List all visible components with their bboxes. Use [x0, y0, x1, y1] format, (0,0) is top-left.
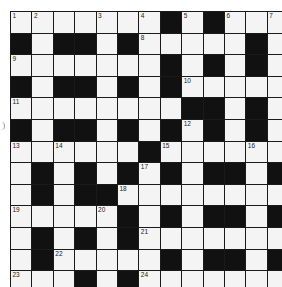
answer-cell[interactable]: 15: [161, 142, 181, 163]
answer-cell[interactable]: [32, 271, 52, 287]
answer-cell[interactable]: 7: [268, 12, 282, 33]
answer-cell[interactable]: [118, 98, 138, 119]
answer-cell[interactable]: 14: [54, 142, 74, 163]
answer-cell[interactable]: [118, 142, 138, 163]
answer-cell[interactable]: [32, 34, 52, 55]
answer-cell[interactable]: [32, 98, 52, 119]
answer-cell[interactable]: [54, 185, 74, 206]
answer-cell[interactable]: [268, 228, 282, 249]
answer-cell[interactable]: [75, 206, 95, 227]
answer-cell[interactable]: [246, 77, 266, 98]
answer-cell[interactable]: [225, 120, 245, 141]
answer-cell[interactable]: [139, 250, 159, 271]
answer-cell[interactable]: 17: [139, 163, 159, 184]
answer-cell[interactable]: [246, 12, 266, 33]
answer-cell[interactable]: [204, 185, 224, 206]
answer-cell[interactable]: [54, 98, 74, 119]
answer-cell[interactable]: [32, 142, 52, 163]
answer-cell[interactable]: [268, 34, 282, 55]
answer-cell[interactable]: [204, 34, 224, 55]
answer-cell[interactable]: [268, 271, 282, 287]
answer-cell[interactable]: 1: [11, 12, 31, 33]
answer-cell[interactable]: 19: [11, 206, 31, 227]
answer-cell[interactable]: [11, 228, 31, 249]
answer-cell[interactable]: 16: [246, 142, 266, 163]
answer-cell[interactable]: [204, 271, 224, 287]
answer-cell[interactable]: [204, 228, 224, 249]
answer-cell[interactable]: [246, 250, 266, 271]
answer-cell[interactable]: [118, 12, 138, 33]
answer-cell[interactable]: [246, 163, 266, 184]
answer-cell[interactable]: [139, 185, 159, 206]
answer-cell[interactable]: 8: [139, 34, 159, 55]
answer-cell[interactable]: [75, 142, 95, 163]
answer-cell[interactable]: [75, 250, 95, 271]
answer-cell[interactable]: [182, 142, 202, 163]
answer-cell[interactable]: [139, 55, 159, 76]
answer-cell[interactable]: [11, 163, 31, 184]
answer-cell[interactable]: 3: [97, 12, 117, 33]
answer-cell[interactable]: [225, 228, 245, 249]
answer-cell[interactable]: [182, 250, 202, 271]
answer-cell[interactable]: [75, 55, 95, 76]
answer-cell[interactable]: [161, 271, 181, 287]
answer-cell[interactable]: [182, 163, 202, 184]
answer-cell[interactable]: [268, 77, 282, 98]
answer-cell[interactable]: 20: [97, 206, 117, 227]
answer-cell[interactable]: [268, 185, 282, 206]
answer-cell[interactable]: [268, 142, 282, 163]
answer-cell[interactable]: [161, 34, 181, 55]
answer-cell[interactable]: [246, 185, 266, 206]
answer-cell[interactable]: [97, 77, 117, 98]
answer-cell[interactable]: [97, 120, 117, 141]
answer-cell[interactable]: [268, 55, 282, 76]
answer-cell[interactable]: [97, 228, 117, 249]
answer-cell[interactable]: [118, 250, 138, 271]
answer-cell[interactable]: 6: [225, 12, 245, 33]
answer-cell[interactable]: [182, 228, 202, 249]
answer-cell[interactable]: [139, 98, 159, 119]
answer-cell[interactable]: [54, 206, 74, 227]
answer-cell[interactable]: [246, 206, 266, 227]
answer-cell[interactable]: 10: [182, 77, 202, 98]
answer-cell[interactable]: [139, 206, 159, 227]
answer-cell[interactable]: [75, 12, 95, 33]
answer-cell[interactable]: 18: [118, 185, 138, 206]
answer-cell[interactable]: [97, 163, 117, 184]
answer-cell[interactable]: [225, 55, 245, 76]
answer-cell[interactable]: [139, 77, 159, 98]
answer-cell[interactable]: [97, 34, 117, 55]
answer-cell[interactable]: [268, 120, 282, 141]
answer-cell[interactable]: [139, 120, 159, 141]
answer-cell[interactable]: 22: [54, 250, 74, 271]
answer-cell[interactable]: [32, 206, 52, 227]
answer-cell[interactable]: 11: [11, 98, 31, 119]
answer-cell[interactable]: 9: [11, 55, 31, 76]
answer-cell[interactable]: [246, 271, 266, 287]
answer-cell[interactable]: 4: [139, 12, 159, 33]
answer-cell[interactable]: [225, 77, 245, 98]
answer-cell[interactable]: [11, 250, 31, 271]
answer-cell[interactable]: [161, 98, 181, 119]
answer-cell[interactable]: [32, 120, 52, 141]
answer-cell[interactable]: [225, 98, 245, 119]
answer-cell[interactable]: [97, 271, 117, 287]
answer-cell[interactable]: [204, 77, 224, 98]
answer-cell[interactable]: 2: [32, 12, 52, 33]
answer-cell[interactable]: [32, 77, 52, 98]
answer-cell[interactable]: [161, 228, 181, 249]
answer-cell[interactable]: [97, 250, 117, 271]
answer-cell[interactable]: [118, 55, 138, 76]
answer-cell[interactable]: [182, 206, 202, 227]
answer-cell[interactable]: 5: [182, 12, 202, 33]
answer-cell[interactable]: [54, 163, 74, 184]
answer-cell[interactable]: [32, 55, 52, 76]
answer-cell[interactable]: [97, 98, 117, 119]
answer-cell[interactable]: [54, 271, 74, 287]
answer-cell[interactable]: 12: [182, 120, 202, 141]
answer-cell[interactable]: [225, 185, 245, 206]
answer-cell[interactable]: [268, 98, 282, 119]
answer-cell[interactable]: [225, 142, 245, 163]
answer-cell[interactable]: [246, 228, 266, 249]
answer-cell[interactable]: [54, 228, 74, 249]
